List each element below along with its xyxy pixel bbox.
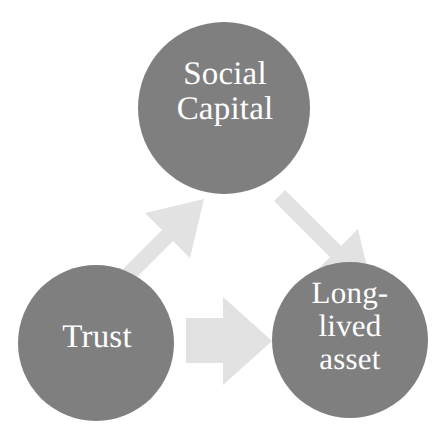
node-circle-social-capital[interactable] [138,22,310,194]
diagram-canvas [0,0,445,448]
node-circle-trust[interactable] [18,265,174,421]
node-circle-long-lived-asset[interactable] [272,262,428,418]
cycle-diagram: Social Capital Trust Long- lived asset [0,0,445,448]
arrow-trust-to-long-lived-asset [186,297,272,385]
